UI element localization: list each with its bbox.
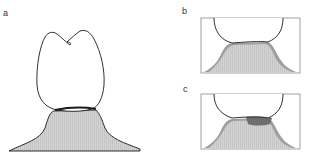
- diagram-canvas: [0, 0, 309, 159]
- panel-c: [201, 94, 300, 149]
- tooth-crown-a: [37, 30, 104, 111]
- gingiva-a: [9, 110, 140, 151]
- tooth-crown-b: [214, 18, 283, 43]
- tooth-crown-c: [214, 94, 283, 118]
- panel-b: [201, 18, 300, 73]
- panel-a: [9, 30, 140, 151]
